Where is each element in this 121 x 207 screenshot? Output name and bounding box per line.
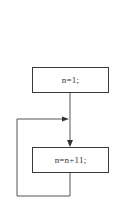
flowchart-connectors <box>0 0 121 207</box>
process-node-update: n=n+11; <box>32 147 109 173</box>
node-label: n=1; <box>62 75 79 85</box>
arrowhead-down-icon <box>67 140 73 147</box>
arrowhead-right-icon <box>62 117 69 122</box>
node-label: n=n+11; <box>55 155 87 165</box>
process-node-init: n=1; <box>32 67 109 93</box>
